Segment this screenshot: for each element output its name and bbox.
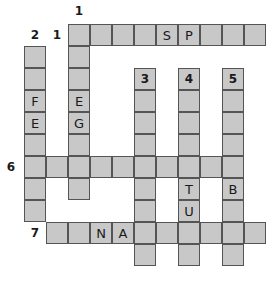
grid-cell[interactable] (68, 46, 90, 68)
clue-number: 1 (50, 28, 64, 42)
grid-cell[interactable] (200, 222, 222, 244)
grid-cell[interactable] (134, 156, 156, 178)
grid-cell[interactable] (68, 134, 90, 156)
grid-cell[interactable] (68, 68, 90, 90)
grid-cell[interactable] (156, 222, 178, 244)
grid-cell[interactable]: A (112, 222, 134, 244)
grid-cell[interactable] (222, 244, 244, 266)
clue-number: 4 (182, 72, 196, 86)
grid-cell[interactable] (222, 112, 244, 134)
grid-cell[interactable]: B (222, 178, 244, 200)
grid-cell[interactable] (46, 222, 68, 244)
clue-number: 7 (28, 226, 42, 240)
grid-cell[interactable]: F (24, 90, 46, 112)
grid-cell[interactable] (24, 46, 46, 68)
grid-cell[interactable] (222, 134, 244, 156)
grid-cell[interactable] (134, 112, 156, 134)
grid-cell[interactable] (134, 178, 156, 200)
grid-cell[interactable] (156, 156, 178, 178)
grid-cell[interactable] (222, 90, 244, 112)
grid-cell[interactable] (90, 24, 112, 46)
grid-cell[interactable]: E (24, 112, 46, 134)
grid-cell[interactable] (222, 156, 244, 178)
grid-cell[interactable] (134, 90, 156, 112)
grid-cell[interactable] (134, 134, 156, 156)
grid-cell[interactable] (178, 244, 200, 266)
grid-cell[interactable] (200, 24, 222, 46)
grid-cell[interactable]: N (90, 222, 112, 244)
crossword-grid: SPEGFETUBNA12134567 (0, 0, 272, 285)
grid-cell[interactable] (178, 134, 200, 156)
grid-cell[interactable] (244, 222, 266, 244)
grid-cell[interactable]: T (178, 178, 200, 200)
clue-number: 2 (28, 28, 42, 42)
grid-cell[interactable] (90, 156, 112, 178)
grid-cell[interactable] (24, 178, 46, 200)
grid-cell[interactable] (68, 24, 90, 46)
grid-cell[interactable] (222, 24, 244, 46)
grid-cell[interactable] (134, 200, 156, 222)
grid-cell[interactable] (222, 200, 244, 222)
grid-cell[interactable] (24, 68, 46, 90)
grid-cell[interactable] (178, 90, 200, 112)
grid-cell[interactable] (24, 156, 46, 178)
grid-cell[interactable]: S (156, 24, 178, 46)
grid-cell[interactable]: E (68, 90, 90, 112)
grid-cell[interactable] (178, 112, 200, 134)
grid-cell[interactable] (134, 24, 156, 46)
grid-cell[interactable] (134, 244, 156, 266)
grid-cell[interactable] (178, 222, 200, 244)
grid-cell[interactable] (68, 222, 90, 244)
grid-cell[interactable] (68, 156, 90, 178)
grid-cell[interactable] (178, 156, 200, 178)
grid-cell[interactable] (68, 178, 90, 200)
clue-number: 3 (138, 72, 152, 86)
grid-cell[interactable] (222, 222, 244, 244)
grid-cell[interactable]: G (68, 112, 90, 134)
grid-cell[interactable] (112, 156, 134, 178)
clue-number: 6 (4, 160, 18, 174)
grid-cell[interactable] (244, 24, 266, 46)
grid-cell[interactable] (200, 156, 222, 178)
grid-cell[interactable] (112, 24, 134, 46)
grid-cell[interactable]: P (178, 24, 200, 46)
grid-cell[interactable] (134, 222, 156, 244)
grid-cell[interactable] (24, 200, 46, 222)
grid-cell[interactable] (46, 156, 68, 178)
grid-cell[interactable] (24, 134, 46, 156)
grid-cell[interactable]: U (178, 200, 200, 222)
clue-number: 5 (226, 72, 240, 86)
clue-number: 1 (72, 4, 86, 18)
